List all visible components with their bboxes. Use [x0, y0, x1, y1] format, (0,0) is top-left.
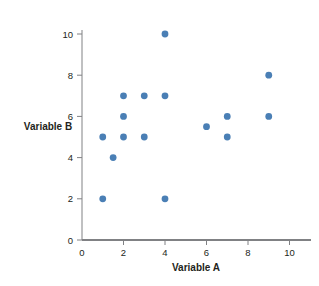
- x-tick-label: 4: [162, 247, 167, 258]
- plot-canvas: 0246810 0246810 Variable B Variable A: [0, 0, 319, 286]
- y-tick-label: 4: [68, 152, 73, 163]
- data-point: [99, 134, 106, 141]
- y-tick-label: 0: [68, 235, 73, 246]
- x-tick-label: 2: [121, 247, 126, 258]
- data-point: [265, 72, 272, 79]
- data-point: [110, 154, 117, 161]
- data-point: [141, 134, 148, 141]
- y-axis-ticks: 0246810: [62, 29, 82, 246]
- data-point: [99, 195, 106, 202]
- data-point: [162, 92, 169, 99]
- data-point: [120, 113, 127, 120]
- data-point: [224, 134, 231, 141]
- data-point: [162, 31, 169, 38]
- data-point: [162, 195, 169, 202]
- y-tick-label: 2: [68, 193, 73, 204]
- data-point: [141, 92, 148, 99]
- x-tick-label: 6: [204, 247, 209, 258]
- data-point: [203, 123, 210, 130]
- y-axis-title: Variable B: [24, 121, 72, 132]
- scatter-plot-figure: 0246810 0246810 Variable B Variable A: [0, 0, 319, 286]
- x-axis-title: Variable A: [172, 262, 220, 273]
- data-point: [120, 134, 127, 141]
- x-axis-ticks: 0246810: [79, 240, 294, 258]
- y-tick-label: 8: [68, 70, 73, 81]
- x-tick-label: 0: [79, 247, 84, 258]
- x-tick-label: 8: [245, 247, 250, 258]
- y-tick-label: 10: [62, 29, 73, 40]
- data-points-layer: [99, 31, 272, 203]
- data-point: [224, 113, 231, 120]
- x-tick-label: 10: [284, 247, 295, 258]
- data-point: [120, 92, 127, 99]
- data-point: [265, 113, 272, 120]
